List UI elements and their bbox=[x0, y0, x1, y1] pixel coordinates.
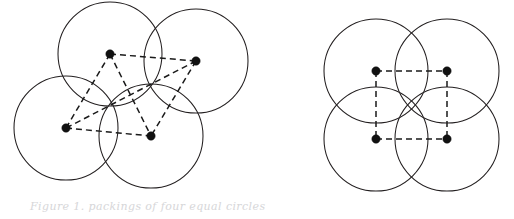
right-panel-center-dots bbox=[372, 67, 451, 143]
center-dot-top-left bbox=[372, 67, 380, 75]
center-dot-bottom-left bbox=[372, 135, 380, 143]
center-dot-top-left bbox=[106, 50, 114, 58]
link-top-edge bbox=[110, 54, 196, 61]
figure-caption: Figure 1. packings of four equal circles bbox=[30, 201, 265, 213]
left-panel-center-links bbox=[66, 54, 196, 136]
right-panel-circles bbox=[324, 19, 499, 191]
figure-root: Figure 1. packings of four equal circles bbox=[0, 0, 514, 219]
center-dot-bottom-right bbox=[147, 132, 155, 140]
four-circle-packing-figure bbox=[0, 0, 514, 219]
center-dot-bottom-left bbox=[62, 124, 70, 132]
link-bottom-edge bbox=[66, 128, 151, 136]
center-dot-top-right bbox=[443, 67, 451, 75]
center-dot-bottom-right bbox=[443, 135, 451, 143]
right-panel bbox=[324, 19, 499, 191]
link-diagonal-b bbox=[66, 61, 196, 128]
center-dot-top-right bbox=[192, 57, 200, 65]
left-panel bbox=[14, 2, 248, 188]
right-panel-center-links bbox=[376, 71, 447, 139]
